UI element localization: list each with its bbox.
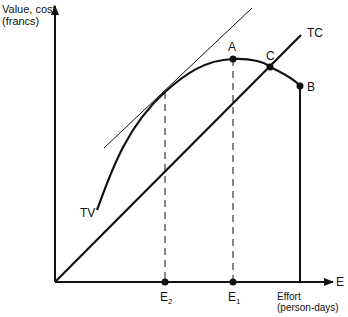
point-a	[230, 56, 237, 63]
point-e2	[162, 279, 169, 286]
tc-line	[55, 35, 301, 282]
label-c: C	[266, 50, 275, 62]
label-e2-sub: 2	[168, 297, 172, 306]
point-c	[267, 64, 274, 71]
label-e1-main: E	[228, 290, 236, 304]
label-e1: E1	[228, 291, 240, 308]
label-a: A	[228, 41, 236, 53]
x-axis-symbol: E	[336, 276, 344, 288]
label-e2: E2	[160, 291, 172, 308]
label-e1-sub: 1	[236, 297, 240, 306]
diagram-canvas	[0, 0, 348, 317]
tangent-line	[104, 8, 252, 148]
x-axis-label-line2: (person-days)	[277, 302, 339, 314]
label-b: B	[307, 81, 315, 93]
y-axis-label-line2: (francs)	[2, 15, 39, 27]
label-tv: TV	[80, 207, 95, 219]
tv-curve	[97, 59, 300, 210]
point-e1	[230, 279, 237, 286]
label-e2-main: E	[160, 290, 168, 304]
y-axis-label-line1: Value, cost	[2, 3, 56, 15]
point-b	[297, 83, 304, 90]
label-tc: TC	[307, 27, 323, 39]
